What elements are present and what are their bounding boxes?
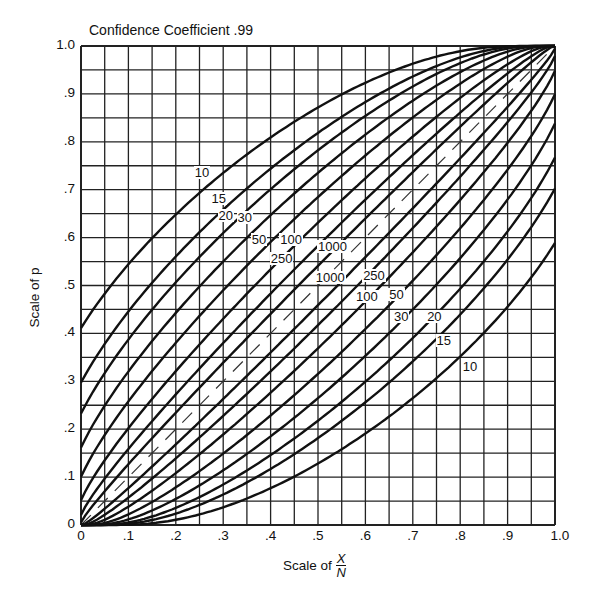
curve-label-n50: 50	[251, 233, 267, 246]
y-axis-label: Scale of p	[27, 258, 42, 338]
curve-label-n100: 100	[279, 233, 303, 246]
x-tick-label: .3	[203, 528, 243, 543]
y-tick-label: 1.0	[35, 37, 75, 52]
y-tick-label: .7	[35, 181, 75, 196]
curve-label-n20: 20	[426, 310, 442, 323]
curve-label-n10: 10	[194, 166, 210, 179]
x-tick-label: .2	[156, 528, 196, 543]
x-tick-label: 1.0	[540, 528, 580, 543]
x-tick-label: .4	[251, 528, 291, 543]
curve-label-n1000: 1000	[315, 271, 346, 284]
x-tick-label: .6	[345, 528, 385, 543]
curve-label-n250: 250	[362, 269, 386, 282]
y-tick-label: .3	[35, 372, 75, 387]
curve-label-n20: 20	[218, 209, 234, 222]
x-tick-label: .8	[440, 528, 480, 543]
x-axis-fraction: X N	[336, 552, 347, 579]
curve-label-n100: 100	[355, 290, 379, 303]
y-tick-label: .9	[35, 85, 75, 100]
y-tick-label: .1	[35, 468, 75, 483]
curve-label-n50: 50	[388, 288, 404, 301]
x-tick-label: .9	[488, 528, 528, 543]
x-axis-label-text: Scale of	[283, 558, 332, 573]
y-tick-label: .6	[35, 229, 75, 244]
curve-label-n1000: 1000	[317, 240, 348, 253]
fraction-denominator: N	[336, 566, 345, 579]
curve-label-n15: 15	[210, 192, 226, 205]
y-tick-label: .2	[35, 420, 75, 435]
x-tick-label: .1	[108, 528, 148, 543]
chart-title: Confidence Coefficient .99	[89, 22, 253, 38]
fraction-numerator: X	[336, 552, 347, 566]
curve-label-n250: 250	[270, 252, 294, 265]
x-tick-label: .5	[298, 528, 338, 543]
curve-label-n30: 30	[393, 310, 409, 323]
y-tick-label: .8	[35, 133, 75, 148]
x-tick-label: .7	[393, 528, 433, 543]
x-tick-label: 0	[61, 528, 101, 543]
curve-label-n10: 10	[462, 360, 478, 373]
chart-canvas	[0, 0, 594, 605]
curve-label-n30: 30	[237, 211, 253, 224]
x-axis-label: Scale of X N	[283, 552, 346, 579]
curve-label-n15: 15	[436, 334, 452, 347]
